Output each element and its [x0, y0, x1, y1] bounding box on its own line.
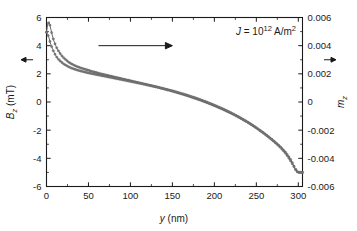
data-point-marker [279, 146, 281, 148]
series-line [47, 22, 299, 173]
x-axis-ticks [47, 18, 299, 187]
series-Bz-profile [45, 22, 303, 174]
data-point-marker [52, 38, 54, 40]
y-right-tick-label: 0 [308, 96, 313, 107]
data-point-marker [50, 45, 52, 47]
current-density-annotation: J = 1012 A/m2 [235, 24, 296, 37]
x-tick-label: 150 [164, 190, 180, 201]
y-right-tick-label: 0.004 [308, 40, 332, 51]
data-point-marker [49, 40, 51, 42]
data-point-marker [47, 35, 49, 37]
y-axis-right-tick-labels: 0.0060.0040.0020-0.002-0.004-0.006 [308, 12, 335, 192]
data-point-marker [289, 160, 291, 162]
y-right-tick-label: -0.002 [308, 125, 335, 136]
x-tick-label: 50 [83, 190, 94, 201]
data-point-marker [47, 22, 49, 24]
data-point-marker [301, 171, 303, 173]
data-point-marker [57, 50, 59, 52]
data-point-marker [54, 43, 56, 45]
data-point-marker [45, 31, 47, 33]
data-point-marker [52, 50, 54, 52]
y-left-tick-label: -2 [33, 125, 41, 136]
x-tick-label: 100 [123, 190, 139, 201]
x-axis-tick-labels: 050100150200250300 [44, 190, 306, 201]
y-left-tick-label: 4 [36, 40, 41, 51]
data-point-marker [281, 148, 283, 150]
data-point-marker [293, 166, 295, 168]
y-right-tick-label: -0.006 [308, 181, 335, 192]
data-point-marker [295, 169, 297, 171]
x-axis-label: y (nm) [159, 213, 188, 224]
y-axis-right-label: mz [335, 96, 349, 108]
x-tick-label: 0 [44, 190, 49, 201]
data-point-marker [54, 53, 56, 55]
data-point-marker [49, 24, 51, 26]
data-point-marker [283, 150, 285, 152]
series-line [47, 32, 299, 172]
data-point-marker [291, 163, 293, 165]
right-pointing-arrow-annotation [99, 42, 173, 48]
right-axis-arrow-marker [324, 57, 336, 62]
y-right-tick-label: 0.002 [308, 68, 332, 79]
data-point-marker [286, 155, 288, 157]
annotations-group [21, 42, 336, 62]
data-point-marker [61, 55, 63, 57]
chart-canvas: 050100150200250300 6420-2-4-6 0.0060.004… [0, 0, 357, 231]
series-mz-profile [45, 31, 303, 173]
y-axis-left-tick-labels: 6420-2-4-6 [33, 12, 41, 192]
plot-frame [47, 18, 303, 187]
data-point-marker [284, 152, 286, 154]
figure-container: 050100150200250300 6420-2-4-6 0.0060.004… [0, 0, 357, 231]
data-point-marker [56, 56, 58, 58]
y-axis-right-ticks [298, 18, 302, 187]
x-tick-label: 200 [206, 190, 222, 201]
y-left-tick-label: 6 [36, 12, 41, 23]
x-tick-label: 250 [248, 190, 264, 201]
data-point-marker [59, 52, 61, 54]
left-axis-arrow-marker [21, 57, 33, 62]
data-point-marker [56, 47, 58, 49]
y-right-tick-label: 0.006 [308, 12, 332, 23]
y-axis-left-label: Bz (mT) [5, 85, 19, 119]
data-point-marker [288, 157, 290, 159]
y-right-tick-label: -0.004 [308, 153, 335, 164]
y-left-tick-label: 0 [36, 96, 41, 107]
data-series-group [45, 22, 303, 174]
y-left-tick-label: 2 [36, 68, 41, 79]
x-tick-label: 300 [290, 190, 306, 201]
data-point-marker [50, 31, 52, 33]
y-left-tick-label: -6 [33, 181, 41, 192]
y-left-tick-label: -4 [33, 153, 41, 164]
